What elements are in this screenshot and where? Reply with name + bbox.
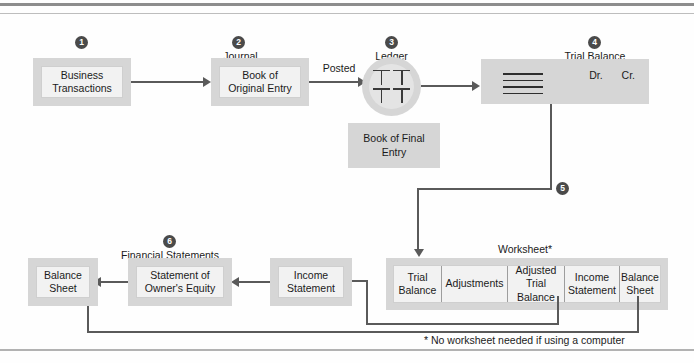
worksheet-col-balance-sheet[interactable]: Balance Sheet [620,266,660,302]
node-book-of-final-entry[interactable]: Book of Final Entry [348,123,440,168]
step-badge-5: 5 [556,182,569,195]
edge-ws-balance-up [87,305,89,331]
edge-ws-balance-left [87,331,639,333]
worksheet-col-trial-balance[interactable]: Trial Balance [394,266,442,302]
step-badge-1: 1 [75,36,88,49]
edge-equity-to-balance-sheet [100,281,128,283]
caption-worksheet: Worksheet* [460,243,590,256]
node-statement-of-owners-equity-label: Statement of Owner's Equity [136,266,224,298]
node-book-of-original-entry[interactable]: Book of Original Entry [211,58,309,106]
step-badge-3: 3 [385,36,398,49]
worksheet-footnote: * No worksheet needed if using a compute… [424,334,625,346]
node-business-transactions-label: Business Transactions [41,66,123,98]
trial-balance-debit-label: Dr. [589,69,602,81]
node-book-of-original-entry-label: Book of Original Entry [219,66,301,98]
trial-balance-rule-lines [503,73,543,99]
node-income-statement[interactable]: Income Statement [270,258,352,306]
top-rule-thin [0,13,694,14]
top-rule-thick [0,3,694,6]
edge-ws-income-down [557,296,559,325]
worksheet-col-income-statement[interactable]: Income Statement [565,266,620,302]
arrowhead-to-trial-balance [472,81,480,91]
node-book-of-final-entry-label: Book of Final Entry [356,131,432,160]
edge-ws-balance-down [637,296,639,332]
edge-transactions-to-journal [131,81,203,83]
node-ledger-circle[interactable] [362,57,421,116]
accounting-cycle-diagram: 1 Business Transactions 2 Journal Book o… [0,0,694,363]
edge-ws-income-left [366,323,559,325]
edge-income-to-equity [238,281,270,283]
arrowhead-to-worksheet [414,249,424,257]
ledger-t-accounts [362,57,421,116]
t-account [373,88,390,103]
trial-balance-credit-label: Cr. [622,69,635,81]
trial-balance-dr-cr: Dr. Cr. [573,69,635,81]
worksheet-col-adjustments[interactable]: Adjustments [442,266,508,302]
node-business-transactions[interactable]: Business Transactions [33,58,131,106]
worksheet-columns: Trial Balance Adjustments Adjusted Trial… [393,265,661,303]
arrowhead-to-equity [231,277,239,287]
edge-ws-income-up [366,281,368,325]
node-trial-balance[interactable]: Dr. Cr. [481,59,649,104]
edge-tb-left [417,188,552,190]
step-badge-2: 2 [232,36,245,49]
step-badge-6: 6 [163,235,176,248]
step-badge-4: 4 [588,36,601,49]
edge-journal-to-ledger [309,81,358,83]
node-worksheet[interactable]: Trial Balance Adjustments Adjusted Trial… [386,258,668,310]
edge-tb-down [550,104,552,190]
arrowhead-to-journal [203,77,211,87]
node-income-statement-label: Income Statement [278,266,344,298]
edge-tb-down-to-worksheet [417,188,419,251]
node-balance-sheet-label: Balance Sheet [36,266,90,298]
edge-ledger-to-trial-balance [421,85,472,87]
edge-label-posted: Posted [311,62,367,75]
t-account [393,88,410,103]
node-statement-of-owners-equity[interactable]: Statement of Owner's Equity [128,258,232,306]
bottom-rule [0,349,694,351]
t-account [393,70,410,85]
node-balance-sheet[interactable]: Balance Sheet [28,258,98,306]
t-account [373,70,390,85]
